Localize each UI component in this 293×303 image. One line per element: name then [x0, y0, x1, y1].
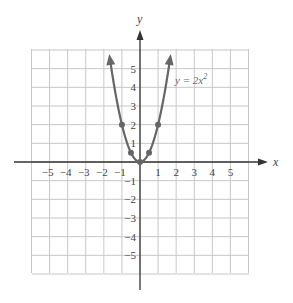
- y-tick-label: −3: [124, 212, 136, 224]
- y-tick-label: 2: [131, 119, 137, 131]
- data-point: [146, 150, 152, 156]
- x-axis-arrow-icon: [258, 159, 268, 166]
- x-tick-label: −2: [96, 166, 108, 178]
- y-tick-label: 4: [131, 81, 137, 93]
- x-tick-label: −4: [60, 166, 72, 178]
- x-tick-label: −5: [42, 166, 54, 178]
- x-tick-label: 1: [155, 166, 161, 178]
- x-tick-label: 5: [228, 166, 234, 178]
- x-tick-label: 4: [210, 166, 216, 178]
- data-point: [137, 159, 143, 165]
- y-axis-arrow-icon: [137, 30, 144, 40]
- x-axis-label: x: [272, 155, 279, 169]
- y-tick-label: −1: [124, 175, 136, 187]
- y-axis-label: y: [136, 12, 143, 26]
- data-point: [128, 150, 134, 156]
- x-tick-label: 3: [192, 166, 198, 178]
- y-tick-label: −5: [124, 249, 136, 261]
- x-tick-label: −3: [78, 166, 90, 178]
- data-point: [119, 122, 125, 128]
- data-point: [155, 122, 161, 128]
- curve-arrow-icon: [165, 54, 174, 66]
- x-tick-label: 2: [173, 166, 179, 178]
- equation-label: y = 2x2: [174, 72, 207, 86]
- parabola-chart: x y −5−4−3−2−11234554321−1−2−3−4−5 y = 2…: [0, 0, 293, 303]
- y-tick-label: −4: [124, 231, 136, 243]
- axes: x y: [14, 12, 279, 290]
- y-tick-label: 1: [131, 137, 137, 149]
- y-tick-label: 5: [131, 63, 137, 75]
- y-tick-label: 3: [131, 100, 137, 112]
- y-tick-label: −2: [124, 193, 136, 205]
- curve-arrow-icon: [106, 54, 115, 66]
